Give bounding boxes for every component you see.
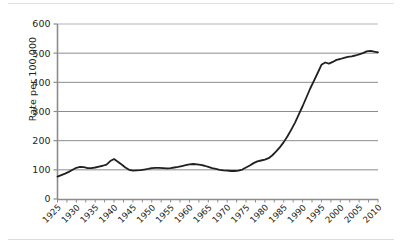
chart-figure: Rate per 100,000 0100200300400500600 192… [0, 0, 402, 249]
x-tick-label: 1930 [59, 202, 82, 225]
y-tick-label: 0 [44, 193, 50, 204]
x-tick-label: 1975 [229, 202, 252, 225]
gridline-group [58, 24, 379, 170]
x-tick-label: 2005 [342, 202, 365, 225]
data-series-line [58, 51, 379, 177]
x-tick-label: 1945 [116, 202, 139, 225]
x-tick-label: 1955 [153, 202, 176, 225]
y-tick-label: 200 [32, 135, 50, 146]
x-tick-label: 1940 [97, 202, 120, 225]
y-tick-label: 500 [32, 48, 50, 59]
x-tick-label: 2000 [323, 202, 346, 225]
x-tick-label: 1980 [248, 202, 271, 225]
x-tick-label: 1950 [135, 202, 158, 225]
y-tick-label: 400 [32, 77, 50, 88]
x-tick-label: 1960 [172, 202, 195, 225]
y-tick-label: 100 [32, 164, 50, 175]
x-tick-group: 1925193019351940194519501955196019651970… [40, 202, 383, 225]
x-tick-label: 1970 [210, 202, 233, 225]
x-tick-label: 2010 [361, 202, 384, 225]
line-chart-plot: 0100200300400500600 19251930193519401945… [0, 0, 402, 249]
x-tick-label: 1990 [285, 202, 308, 225]
x-tick-label: 1965 [191, 202, 214, 225]
x-tick-label: 1995 [304, 202, 327, 225]
x-tick-label: 1935 [78, 202, 101, 225]
y-tick-label: 600 [32, 18, 50, 29]
x-tick-label: 1925 [40, 202, 63, 225]
y-tick-label: 300 [32, 106, 50, 117]
y-tick-group: 0100200300400500600 [32, 18, 57, 204]
x-tick-label: 1985 [267, 202, 290, 225]
